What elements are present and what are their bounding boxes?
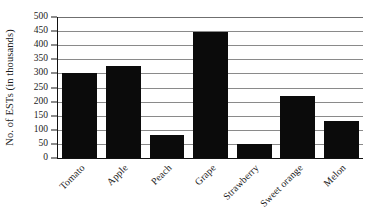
bar-slot [145, 17, 189, 158]
y-tick-label: 0 [20, 153, 48, 163]
y-tick-label: 250 [20, 83, 48, 93]
y-tick-label: 350 [20, 55, 48, 65]
y-tick-label: 500 [20, 12, 48, 22]
bar[interactable] [280, 96, 315, 158]
x-label-slot: Melon [318, 160, 362, 222]
bar-slot [189, 17, 233, 158]
x-axis-tick-labels: TomatoApplePeachGrapeStrawberrySweet ora… [57, 160, 362, 222]
bar[interactable] [237, 144, 272, 158]
bar-slot [102, 17, 146, 158]
x-tick-label: Peach [149, 162, 174, 187]
bar-series [58, 17, 363, 158]
y-tick-label: 400 [20, 40, 48, 50]
bar[interactable] [62, 73, 97, 158]
y-axis-title: No. of ESTs (in thousands) [1, 17, 17, 158]
x-label-slot: Peach [144, 160, 188, 222]
bar-slot [58, 17, 102, 158]
x-label-slot: Apple [101, 160, 145, 222]
y-tick-label: 450 [20, 26, 48, 36]
bar[interactable] [150, 135, 185, 158]
y-tick-label: 200 [20, 97, 48, 107]
y-tick-label: 300 [20, 69, 48, 79]
y-tick-label: 100 [20, 125, 48, 135]
y-axis-tick-labels: 050100150200250300350400450500 [20, 17, 48, 158]
bar[interactable] [193, 32, 228, 158]
y-tick-label: 150 [20, 111, 48, 121]
plot-area [57, 17, 363, 159]
y-tick-label: 50 [20, 139, 48, 149]
bar[interactable] [324, 121, 359, 158]
bar-slot [276, 17, 320, 158]
x-tick-label: Apple [105, 162, 130, 187]
x-label-slot: Sweet orange [275, 160, 319, 222]
x-label-slot: Tomato [57, 160, 101, 222]
x-tick-label: Tomato [57, 162, 87, 192]
bar-slot [319, 17, 363, 158]
x-tick-label: Grape [192, 162, 217, 187]
bar[interactable] [106, 66, 141, 158]
bar-chart: No. of ESTs (in thousands) 0501001502002… [0, 0, 368, 224]
bar-slot [232, 17, 276, 158]
x-tick-label: Melon [321, 162, 348, 189]
